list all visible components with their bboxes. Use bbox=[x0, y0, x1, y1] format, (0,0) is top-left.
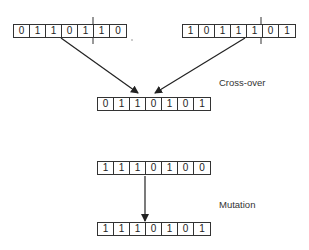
gene: 1 bbox=[215, 25, 231, 37]
gene: 1 bbox=[162, 223, 178, 235]
gene: 1 bbox=[183, 25, 199, 37]
gene: 0 bbox=[263, 25, 279, 37]
gene: 0 bbox=[14, 25, 30, 37]
gene: 1 bbox=[279, 25, 295, 37]
gene: 1 bbox=[194, 98, 210, 110]
crossover-arrow-left bbox=[61, 38, 138, 93]
gene: 1 bbox=[30, 25, 46, 37]
gene: 0 bbox=[98, 98, 114, 110]
gene: 1 bbox=[162, 162, 178, 174]
gene: 1 bbox=[114, 98, 130, 110]
gene: 1 bbox=[78, 25, 94, 37]
gene: 1 bbox=[94, 25, 110, 37]
crossover-label: Cross-over bbox=[219, 77, 265, 88]
stray-dot bbox=[131, 39, 133, 41]
mutation-before-chromosome: 1 1 1 0 1 0 0 bbox=[97, 161, 211, 175]
mutation-label: Mutation bbox=[219, 199, 255, 210]
gene: 0 bbox=[146, 98, 162, 110]
gene: 1 bbox=[231, 25, 247, 37]
gene: 0 bbox=[178, 98, 194, 110]
gene: 1 bbox=[130, 98, 146, 110]
gene: 1 bbox=[162, 98, 178, 110]
gene: 0 bbox=[110, 25, 126, 37]
gene: 0 bbox=[194, 162, 210, 174]
crossover-child-chromosome: 0 1 1 0 1 0 1 bbox=[97, 97, 211, 111]
gene: 1 bbox=[46, 25, 62, 37]
gene: 1 bbox=[114, 162, 130, 174]
gene: 1 bbox=[130, 223, 146, 235]
gene: 1 bbox=[114, 223, 130, 235]
gene: 0 bbox=[146, 223, 162, 235]
parent-a-chromosome: 0 1 1 0 1 1 0 bbox=[13, 24, 127, 38]
parent-b-chromosome: 1 0 1 1 1 0 1 bbox=[182, 24, 296, 38]
gene: 1 bbox=[247, 25, 263, 37]
gene: 0 bbox=[62, 25, 78, 37]
gene: 0 bbox=[199, 25, 215, 37]
gene: 0 bbox=[146, 162, 162, 174]
gene: 1 bbox=[130, 162, 146, 174]
gene: 0 bbox=[178, 223, 194, 235]
gene: 0 bbox=[178, 162, 194, 174]
mutation-after-chromosome: 1 1 1 0 1 0 1 bbox=[97, 222, 211, 236]
gene: 1 bbox=[98, 162, 114, 174]
gene: 1 bbox=[98, 223, 114, 235]
gene: 1 bbox=[194, 223, 210, 235]
